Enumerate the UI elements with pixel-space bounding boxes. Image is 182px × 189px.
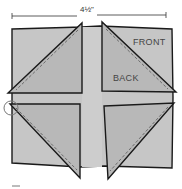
back-label: BACK	[113, 73, 139, 83]
dimension-label: 4½"	[80, 5, 94, 14]
front-label: FRONT	[133, 37, 166, 47]
center-strip	[82, 27, 102, 167]
diagram-svg	[0, 0, 182, 189]
folded-fabric-diagram: 4½" FRONT BACK	[0, 0, 182, 189]
